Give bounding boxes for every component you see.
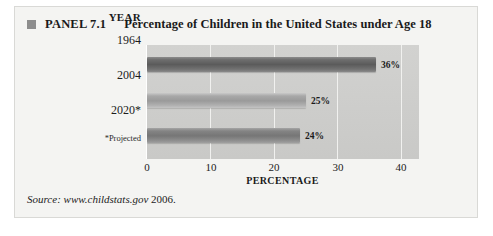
xtick-0: 0 [144, 161, 150, 173]
category-label-2004: 2004 [117, 68, 141, 83]
xtick-20: 20 [269, 161, 280, 173]
source-prefix: Source: [27, 193, 61, 205]
bar-2020[interactable] [147, 128, 300, 143]
gridline-40 [401, 45, 402, 159]
bar-2004[interactable] [147, 93, 306, 108]
source-note: Source: www.childstats.gov 2006. [27, 193, 176, 205]
xtick-10: 10 [206, 161, 217, 173]
x-axis-title: PERCENTAGE [146, 175, 419, 186]
xtick-30: 30 [333, 161, 344, 173]
panel-container: PANEL 7.1 Percentage of Children in the … [14, 6, 478, 218]
category-label-2020: 2020* [111, 103, 141, 118]
bar-chart: YEAR 1964 2004 2020* *Projected 36% 25% … [15, 7, 479, 219]
bar-1964[interactable] [147, 57, 376, 72]
bar-value-2020: 24% [305, 131, 324, 141]
projected-footnote: *Projected [105, 133, 141, 143]
xtick-40: 40 [396, 161, 407, 173]
bar-value-1964: 36% [381, 60, 400, 70]
source-year: 2006. [151, 193, 176, 205]
bar-value-2004: 25% [311, 96, 330, 106]
source-site: www.childstats.gov [64, 193, 149, 205]
category-axis-title: YEAR [109, 11, 141, 23]
plot-area [146, 45, 419, 159]
category-label-1964: 1964 [117, 33, 141, 48]
